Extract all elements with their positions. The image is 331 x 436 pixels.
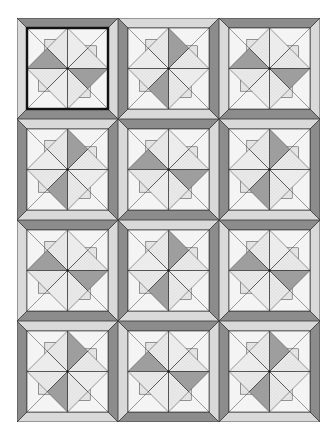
quilt bbox=[17, 18, 320, 422]
quilt-block-b[interactable] bbox=[17, 321, 118, 422]
quilt-block-a[interactable] bbox=[219, 220, 320, 321]
quilt-block-b[interactable] bbox=[118, 18, 219, 119]
quilt-block-a[interactable] bbox=[219, 18, 320, 119]
quilt-block-a[interactable] bbox=[118, 321, 219, 422]
quilt-block-a[interactable] bbox=[118, 119, 219, 220]
quilt-block-b[interactable] bbox=[17, 119, 118, 220]
quilt-block-a[interactable] bbox=[17, 18, 118, 119]
quilt-block-b[interactable] bbox=[118, 220, 219, 321]
quilt-block-a[interactable] bbox=[17, 220, 118, 321]
quilt-block-b[interactable] bbox=[219, 119, 320, 220]
quilt-block-b[interactable] bbox=[219, 321, 320, 422]
